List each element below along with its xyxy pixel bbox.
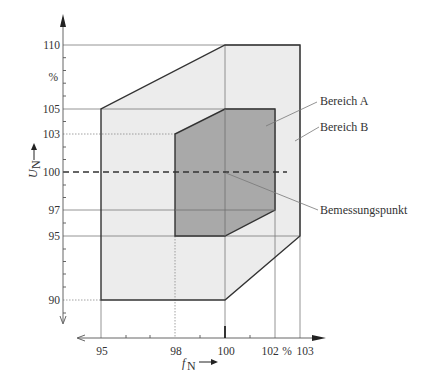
y-axis-title: U N: [26, 143, 43, 178]
y-tick-105: 105: [43, 103, 61, 115]
y-tick-110: 110: [43, 39, 60, 51]
x-tick-102: 102: [261, 345, 279, 357]
label-bereich-b: Bereich B: [320, 120, 368, 134]
label-bemessungspunkt: Bemessungspunkt: [320, 203, 408, 217]
x-axis-title: f N: [182, 356, 218, 373]
y-tick-90: 90: [49, 294, 61, 306]
x-tick-95: 95: [96, 345, 108, 357]
x-axis: [78, 335, 318, 338]
operating-range-diagram: 110 % 105 103 100 97 95 90 U N 95 98 100…: [0, 0, 421, 385]
x-axis-right-arrow-icon: [312, 335, 326, 341]
y-tick-95: 95: [49, 230, 61, 242]
x-tick-100: 100: [217, 345, 235, 357]
y-axis-up-arrow-icon: [60, 14, 66, 27]
x-tick-98: 98: [170, 345, 182, 357]
y-unit-label: %: [48, 71, 58, 83]
svg-text:N: N: [187, 359, 196, 373]
y-tick-100: 100: [43, 166, 61, 178]
svg-text:N: N: [29, 160, 43, 169]
y-tick-103: 103: [43, 128, 61, 140]
label-bereich-a: Bereich A: [320, 94, 369, 108]
y-tick-97: 97: [49, 204, 61, 216]
x-tick-103: 103: [296, 345, 314, 357]
x-unit-label: %: [282, 345, 292, 357]
